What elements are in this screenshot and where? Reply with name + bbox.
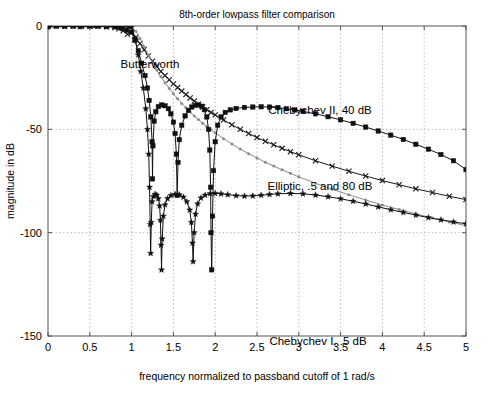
marker-star [363, 201, 369, 207]
marker-x [263, 139, 268, 144]
marker-dot [297, 175, 300, 178]
marker-dot [197, 118, 200, 121]
x-tick-label: 0 [45, 341, 51, 353]
marker-square [145, 86, 149, 90]
marker-star [190, 258, 196, 264]
marker-square [206, 127, 210, 131]
marker-dot [143, 45, 146, 48]
marker-x [254, 135, 259, 140]
marker-square [54, 24, 58, 28]
marker-square [147, 98, 151, 102]
marker-square [150, 140, 154, 144]
series-line [48, 26, 466, 200]
marker-dot [222, 137, 225, 140]
marker-star [425, 214, 431, 220]
marker-dot [347, 193, 350, 196]
marker-dot [272, 165, 275, 168]
marker-dot [289, 172, 292, 175]
marker-square [210, 214, 214, 218]
marker-x [330, 164, 335, 169]
marker-star [77, 24, 83, 30]
marker-square [152, 119, 156, 123]
x-tick-label: 2.5 [249, 341, 264, 353]
marker-dot [193, 114, 196, 117]
marker-square [451, 159, 455, 163]
x-tick-label: 4.5 [417, 341, 432, 353]
marker-x [188, 95, 193, 100]
marker-x [279, 146, 284, 151]
y-tick-label: 0 [36, 20, 42, 32]
marker-star [266, 191, 272, 197]
marker-square [338, 118, 342, 122]
marker-dot [168, 87, 171, 90]
marker-square [71, 24, 75, 28]
y-tick-label: -100 [20, 227, 42, 239]
marker-square [169, 112, 173, 116]
annotation-label: Butterworth [121, 58, 180, 70]
marker-square [208, 148, 212, 152]
x-tick-label: 1 [129, 341, 135, 353]
x-tick-label: 0.5 [82, 341, 97, 353]
marker-square [205, 115, 209, 119]
marker-star [225, 191, 231, 197]
filter-comparison-chart: 00.511.522.533.544.550-50-100-150 Butter… [0, 0, 492, 394]
marker-x [246, 131, 251, 136]
marker-star [350, 198, 356, 204]
marker-star [233, 192, 239, 198]
marker-square [177, 137, 181, 141]
marker-x [288, 149, 293, 154]
marker-square [216, 123, 220, 127]
marker-square [202, 108, 206, 112]
marker-dot [281, 168, 284, 171]
marker-square [171, 120, 175, 124]
annotation-label: Elliptic, .5 and 80 dB [268, 180, 373, 192]
marker-dot [134, 30, 137, 33]
marker-square [183, 114, 187, 118]
marker-square [209, 268, 213, 272]
marker-star [438, 217, 444, 223]
marker-dot [201, 122, 204, 125]
marker-square [176, 160, 180, 164]
annotation-label: Chebychev I, .5 dB [269, 335, 366, 347]
marker-square [376, 129, 380, 133]
marker-x [296, 152, 301, 157]
x-tick-label: 2 [212, 341, 218, 353]
marker-dot [138, 37, 141, 40]
marker-x [271, 142, 276, 147]
marker-square [208, 185, 212, 189]
marker-square [242, 105, 246, 109]
gridlines [48, 26, 466, 336]
marker-square [351, 121, 355, 125]
marker-square [464, 167, 468, 171]
marker-square [151, 144, 155, 148]
x-tick-label: 5 [463, 341, 469, 353]
marker-square [223, 110, 227, 114]
marker-dot [230, 143, 233, 146]
marker-star [413, 212, 419, 218]
marker-star [258, 192, 264, 198]
marker-square [150, 177, 154, 181]
x-axis-label: frequency normalized to passband cutoff … [139, 370, 375, 382]
annotation-label: Chebychev II, 40 dB [268, 104, 372, 116]
marker-x [183, 92, 188, 97]
marker-square [166, 106, 170, 110]
marker-square [173, 131, 177, 135]
marker-dot [172, 92, 175, 95]
marker-square [401, 137, 405, 141]
marker-square [209, 230, 213, 234]
marker-square [219, 115, 223, 119]
marker-square [259, 105, 263, 109]
marker-square [154, 110, 158, 114]
marker-square [228, 108, 232, 112]
marker-dot [256, 157, 259, 160]
marker-square [174, 152, 178, 156]
marker-star [218, 191, 224, 197]
marker-square [251, 105, 255, 109]
marker-star [312, 192, 318, 198]
marker-dot [247, 152, 250, 155]
marker-square [213, 140, 217, 144]
marker-dot [264, 161, 267, 164]
marker-square [211, 168, 215, 172]
marker-square [389, 133, 393, 137]
y-tick-label: -50 [26, 123, 42, 135]
